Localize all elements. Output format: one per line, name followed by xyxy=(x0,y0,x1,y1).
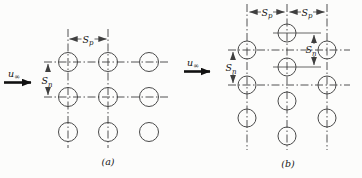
dimension-sp-b-right: Sp xyxy=(290,7,325,21)
sn-label: Sn xyxy=(225,62,237,76)
sn-label: Sn xyxy=(41,75,53,89)
tube-circle xyxy=(140,123,159,142)
flow-velocity-a: u∞ xyxy=(4,68,31,83)
caption-b: (b) xyxy=(281,158,295,169)
dimension-sp-a: Sp xyxy=(70,34,107,48)
sp-label: Sp xyxy=(262,7,274,21)
diagram-a-aligned: Sp Sn u∞ (a) xyxy=(4,29,170,167)
dimension-sp-b-left: Sp xyxy=(250,7,285,21)
sp-label: Sp xyxy=(83,34,95,48)
sn-label: Sn xyxy=(305,44,317,58)
diagram-b-staggered: Sp Sp Sn Sn u∞ (b) xyxy=(184,4,350,169)
u-infinity-label: u∞ xyxy=(187,57,199,70)
dimension-sn-a: Sn xyxy=(41,64,53,95)
u-infinity-label: u∞ xyxy=(8,68,20,81)
caption-a: (a) xyxy=(101,156,114,167)
sp-label: Sp xyxy=(302,7,314,21)
flow-velocity-b: u∞ xyxy=(184,57,210,72)
dimension-sn-b-left: Sn xyxy=(225,52,237,83)
tube-bank-diagram-svg: Sp Sn u∞ (a) xyxy=(0,0,362,178)
tube-bank-figure: Sp Sn u∞ (a) xyxy=(0,0,362,178)
dimension-sn-b-middle: Sn xyxy=(305,35,317,65)
